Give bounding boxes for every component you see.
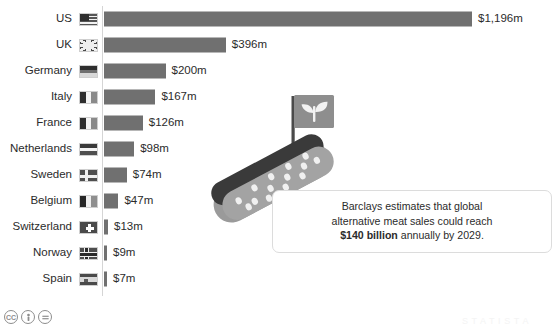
category-label: UK — [0, 39, 76, 51]
category-label: Norway — [0, 247, 76, 259]
bar-track: $200m — [104, 58, 535, 84]
flag-belgium-icon — [79, 195, 98, 208]
bar-value-label: $1,196m — [478, 13, 523, 25]
category-label: Switzerland — [0, 221, 76, 233]
flag-italy-icon — [79, 91, 98, 104]
flag-germany-icon — [79, 65, 98, 78]
bar-track: $7m — [104, 266, 535, 292]
flag-us-icon — [79, 13, 98, 26]
bar — [104, 246, 107, 261]
bar — [104, 272, 107, 287]
category-label: US — [0, 13, 76, 25]
flag-spain-icon — [79, 273, 98, 286]
callout-line-1: Barclays estimates that global — [342, 200, 483, 212]
bar-value-label: $200m — [172, 65, 207, 77]
category-label: Netherlands — [0, 143, 76, 155]
bar-value-label: $47m — [124, 195, 153, 207]
bar-track: $167m — [104, 84, 535, 110]
bar-value-label: $126m — [149, 117, 184, 129]
bar-value-label: $7m — [113, 273, 135, 285]
bar-value-label: $167m — [161, 91, 196, 103]
cc-icon: CC — [4, 310, 18, 324]
callout-annotation: Barclays estimates that global alternati… — [272, 190, 552, 253]
bar-track: $1,196m — [104, 6, 535, 32]
source-watermark: S T A T I S T A — [462, 316, 529, 326]
bar-track: $98m — [104, 136, 535, 162]
nd-icon — [38, 310, 52, 324]
bar-row: France$126m — [0, 110, 535, 136]
bar-row: Netherlands$98m — [0, 136, 535, 162]
bar — [104, 194, 118, 209]
flag-norway-icon — [79, 247, 98, 260]
bar-track: $396m — [104, 32, 535, 58]
bar-track: $126m — [104, 110, 535, 136]
bar — [104, 90, 155, 105]
category-label: France — [0, 117, 76, 129]
bar — [104, 38, 226, 53]
bar — [104, 12, 472, 27]
flag-france-icon — [79, 117, 98, 130]
bar-row: UK$396m — [0, 32, 535, 58]
bar-value-label: $74m — [133, 169, 162, 181]
bar — [104, 64, 166, 79]
flag-sweden-icon — [79, 169, 98, 182]
bar-value-label: $13m — [114, 221, 143, 233]
bar-value-label: $98m — [140, 143, 169, 155]
callout-line-2: alternative meat sales could reach — [332, 215, 493, 227]
bar-row: Sweden$74m — [0, 162, 535, 188]
bar-row: Italy$167m — [0, 84, 535, 110]
bar-row: US$1,196m — [0, 6, 535, 32]
bar-value-label: $396m — [232, 39, 267, 51]
bar-row: Spain$7m — [0, 266, 535, 292]
flag-netherlands-icon — [79, 143, 98, 156]
flag-uk-icon — [79, 39, 98, 52]
category-label: Italy — [0, 91, 76, 103]
category-label: Germany — [0, 65, 76, 77]
bar-value-label: $9m — [113, 247, 135, 259]
bar — [104, 116, 143, 131]
bar-row: Germany$200m — [0, 58, 535, 84]
category-label: Sweden — [0, 169, 76, 181]
by-icon — [21, 310, 35, 324]
bar — [104, 168, 127, 183]
callout-amount: $140 billion — [340, 229, 398, 241]
creative-commons-license-badge[interactable]: CC — [4, 310, 52, 324]
category-label: Spain — [0, 273, 76, 285]
bar-track: $74m — [104, 162, 535, 188]
bar — [104, 142, 134, 157]
callout-line-3: annually by 2029. — [398, 229, 484, 241]
category-label: Belgium — [0, 195, 76, 207]
bar — [104, 220, 108, 235]
flag-switzerland-icon — [79, 221, 98, 234]
